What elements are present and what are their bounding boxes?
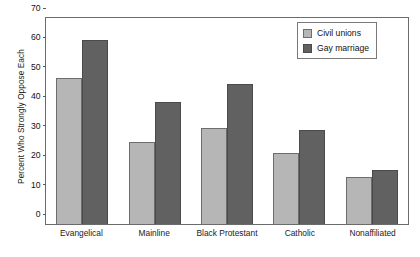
y-tick-label: 40 — [31, 91, 41, 101]
legend-item[interactable]: Gay marriage — [303, 42, 369, 54]
bar[interactable] — [129, 142, 155, 224]
y-tick: 50 — [31, 62, 46, 72]
bar-group — [46, 18, 118, 224]
bar-group — [191, 18, 263, 224]
y-tick: 0 — [36, 209, 46, 219]
bar-chart: Percent Who Strongly Oppose Each 0102030… — [0, 0, 420, 257]
bar[interactable] — [299, 130, 325, 224]
y-axis-title: Percent Who Strongly Oppose Each — [17, 12, 26, 222]
legend-label: Civil unions — [317, 28, 361, 38]
y-tick-label: 20 — [31, 150, 41, 160]
bar[interactable] — [201, 128, 227, 224]
bar[interactable] — [273, 153, 299, 224]
bar[interactable] — [346, 177, 372, 224]
x-axis-label: Mainline — [118, 228, 191, 238]
bar[interactable] — [56, 78, 82, 224]
legend-label: Gay marriage — [317, 43, 369, 53]
y-tick: 10 — [31, 180, 46, 190]
y-tick-mark — [43, 8, 47, 9]
y-tick-label: 70 — [31, 3, 41, 13]
y-tick-label: 10 — [31, 180, 41, 190]
y-tick: 60 — [31, 32, 46, 42]
y-tick: 20 — [31, 150, 46, 160]
bar-group — [118, 18, 190, 224]
y-tick-label: 0 — [36, 209, 41, 219]
x-axis-label: Evangelical — [45, 228, 118, 238]
x-axis-label: Black Protestant — [191, 228, 264, 238]
legend-item[interactable]: Civil unions — [303, 27, 369, 39]
y-tick: 70 — [31, 3, 46, 13]
y-tick-label: 60 — [31, 32, 41, 42]
legend-swatch-icon — [303, 29, 312, 38]
y-tick-label: 50 — [31, 62, 41, 72]
x-axis-label: Nonaffiliated — [336, 228, 409, 238]
bar[interactable] — [227, 84, 253, 224]
bar[interactable] — [372, 170, 398, 224]
legend-swatch-icon — [303, 44, 312, 53]
legend: Civil unionsGay marriage — [297, 22, 377, 59]
y-tick: 40 — [31, 91, 46, 101]
y-tick-label: 30 — [31, 121, 41, 131]
x-axis-label: Catholic — [263, 228, 336, 238]
y-tick: 30 — [31, 121, 46, 131]
x-axis-labels: EvangelicalMainlineBlack ProtestantCatho… — [45, 228, 409, 238]
bar[interactable] — [82, 40, 108, 224]
bar[interactable] — [155, 102, 181, 224]
